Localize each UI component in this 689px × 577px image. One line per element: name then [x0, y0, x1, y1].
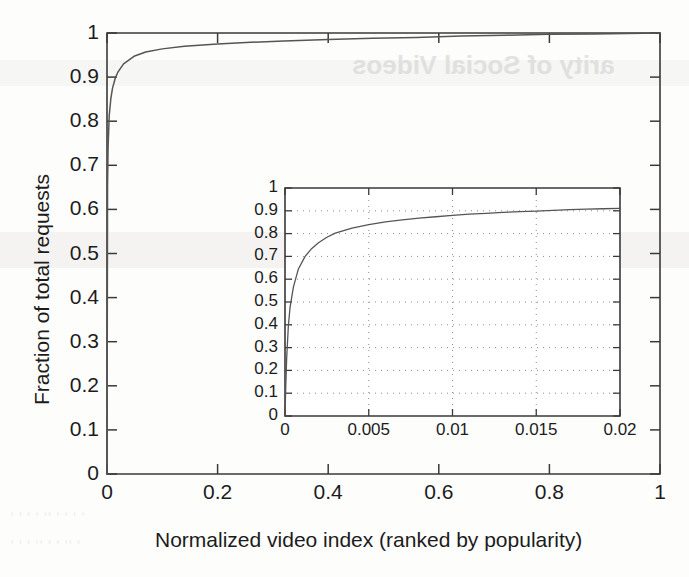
y-axis-title: Fraction of total requests — [30, 174, 54, 405]
x-axis-title: Normalized video index (ranked by popula… — [155, 528, 582, 552]
inset-y-tick-label: 0.7 — [228, 245, 278, 265]
inset-x-tick-label: 0.02 — [587, 420, 653, 440]
inset-x-tick-label: 0.005 — [336, 420, 402, 440]
inset-y-tick-label: 0.5 — [228, 291, 278, 311]
inset-y-tick-label: 0.9 — [228, 200, 278, 220]
inset-x-tick-label: 0 — [252, 420, 318, 440]
main-y-tick-label: 0.7 — [40, 152, 99, 176]
inset-y-tick-label: 0.1 — [228, 382, 278, 402]
main-x-tick-label: 1 — [630, 480, 689, 504]
main-x-tick-label: 0.4 — [298, 480, 358, 504]
inset-y-tick-label: 0.8 — [228, 223, 278, 243]
inset-y-tick-label: 1 — [228, 177, 278, 197]
main-y-ticks-right — [650, 33, 660, 474]
main-y-tick-label: 1 — [40, 20, 99, 44]
inset-y-tick-label: 0.2 — [228, 359, 278, 379]
inset-x-tick-label: 0.01 — [420, 420, 486, 440]
main-y-tick-label: 0.1 — [40, 417, 99, 441]
inset-y-tick-label: 0.6 — [228, 268, 278, 288]
main-y-tick-label: 0.9 — [40, 64, 99, 88]
main-x-tick-label: 0.2 — [188, 480, 248, 504]
inset-y-tick-label: 0.4 — [228, 314, 278, 334]
inset-x-tick-label: 0.015 — [503, 420, 569, 440]
scanned-page: arity of Social Videos , , , , ,, , , , … — [0, 0, 689, 577]
main-x-tick-label: 0.6 — [409, 480, 469, 504]
main-y-tick-label: 0.8 — [40, 108, 99, 132]
main-x-tick-label: 0.8 — [519, 480, 579, 504]
figure-cdf-video-popularity: 00.10.20.30.40.50.60.70.80.91 00.20.40.6… — [0, 0, 689, 577]
inset-y-tick-label: 0.3 — [228, 337, 278, 357]
main-y-ticks — [107, 33, 117, 474]
main-x-tick-label: 0 — [77, 480, 137, 504]
